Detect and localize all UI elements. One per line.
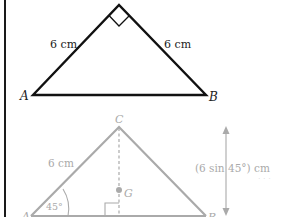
- right-angle-marker: [105, 203, 119, 216]
- top-side-right-label: 6 cm: [164, 38, 192, 51]
- height-label: (6 sin 45°) cm: [195, 162, 270, 174]
- faint-dots: · · ·: [258, 174, 271, 183]
- centroid-dot: [116, 187, 122, 193]
- top-side-left-label: 6 cm: [50, 38, 78, 51]
- angle-arc: [63, 189, 69, 216]
- bottom-vertex-b-label: B: [207, 211, 216, 217]
- top-vertex-a-label: A: [19, 89, 29, 103]
- triangle-diagrams: 6 cm 6 cm A B C G 6 cm 45° (6 sin 45°) c…: [0, 0, 286, 217]
- centroid-g-label: G: [124, 187, 133, 200]
- bottom-side-left-label: 6 cm: [48, 157, 74, 169]
- bottom-vertex-a-label: A: [21, 210, 30, 217]
- angle-a-label: 45°: [46, 201, 63, 212]
- top-vertex-b-label: B: [208, 90, 218, 104]
- bottom-vertex-c-label: C: [115, 113, 124, 126]
- right-angle-marker: [109, 16, 130, 27]
